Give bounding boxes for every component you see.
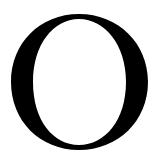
letter-o-icon: O xyxy=(0,0,158,161)
letter-o-glyph: O xyxy=(0,0,158,161)
